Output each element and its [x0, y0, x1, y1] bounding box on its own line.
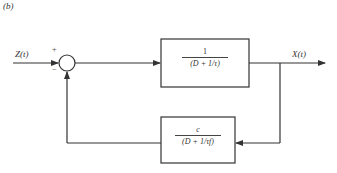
block-diagram — [0, 0, 337, 173]
minus-sign: − — [52, 65, 57, 74]
forward-denominator: (D + 1/τ) — [175, 58, 235, 69]
output-signal-label: X(t) — [292, 49, 306, 59]
plus-sign: + — [52, 45, 57, 54]
input-signal-label: Z(t) — [15, 49, 29, 59]
feedback-numerator: c — [166, 125, 230, 135]
feedback-denominator: (D + 1/τf) — [166, 136, 230, 147]
feedback-transfer-function: c (D + 1/τf) — [166, 125, 230, 147]
panel-label: (b) — [3, 1, 14, 11]
summing-junction — [59, 55, 75, 71]
forward-transfer-function: 1 (D + 1/τ) — [175, 47, 235, 69]
forward-numerator: 1 — [175, 47, 235, 57]
